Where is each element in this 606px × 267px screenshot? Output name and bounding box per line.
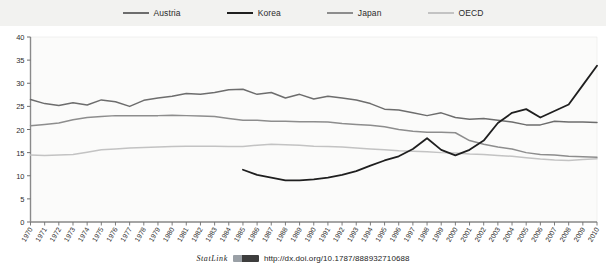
svg-text:1986: 1986 xyxy=(247,226,261,243)
y-axis-tick-labels: 0510152025303540 xyxy=(16,33,24,227)
svg-text:1981: 1981 xyxy=(176,226,190,243)
svg-text:1984: 1984 xyxy=(218,226,232,243)
svg-text:1977: 1977 xyxy=(119,226,133,243)
svg-text:20: 20 xyxy=(16,126,24,135)
svg-text:2009: 2009 xyxy=(572,226,586,243)
legend-label-japan: Japan xyxy=(358,8,382,18)
svg-text:1982: 1982 xyxy=(190,226,204,243)
svg-text:1983: 1983 xyxy=(204,226,218,243)
svg-text:1993: 1993 xyxy=(346,226,360,243)
svg-text:2000: 2000 xyxy=(445,226,459,243)
svg-text:1998: 1998 xyxy=(417,226,431,243)
svg-text:1994: 1994 xyxy=(360,226,374,243)
legend-item-japan[interactable]: Japan xyxy=(327,8,382,18)
legend-label-oecd: OECD xyxy=(459,8,484,18)
svg-text:40: 40 xyxy=(16,33,24,42)
svg-text:2006: 2006 xyxy=(530,226,544,243)
svg-text:1985: 1985 xyxy=(232,226,246,243)
svg-text:0: 0 xyxy=(20,218,24,227)
svg-text:1992: 1992 xyxy=(332,226,346,243)
svg-text:35: 35 xyxy=(16,56,24,65)
svg-text:1989: 1989 xyxy=(289,226,303,243)
svg-text:1970: 1970 xyxy=(20,226,34,243)
statlink-label: StatLink xyxy=(196,254,227,263)
chart-plot-area: 0510152025303540 19701971197219731974197… xyxy=(0,26,606,267)
svg-text:1975: 1975 xyxy=(91,226,105,243)
svg-text:1973: 1973 xyxy=(63,226,77,243)
svg-text:2004: 2004 xyxy=(502,226,516,243)
chart-screenshot: Austria Korea Japan OECD 051015202530354… xyxy=(0,0,606,267)
svg-text:5: 5 xyxy=(20,195,24,204)
y-axis xyxy=(27,37,31,222)
x-axis xyxy=(31,222,598,226)
x-axis-tick-labels: 1970197119721973197419751976197719781979… xyxy=(20,226,600,243)
svg-text:1999: 1999 xyxy=(431,226,445,243)
chart-legend: Austria Korea Japan OECD xyxy=(0,0,606,26)
svg-text:15: 15 xyxy=(16,149,24,158)
svg-text:1979: 1979 xyxy=(147,226,161,243)
statlink-badge-icon xyxy=(233,255,259,262)
plot-background xyxy=(31,37,598,222)
svg-text:2008: 2008 xyxy=(558,226,572,243)
svg-text:1971: 1971 xyxy=(34,226,48,243)
legend-swatch-oecd xyxy=(428,12,454,14)
legend-item-austria[interactable]: Austria xyxy=(123,8,181,18)
legend-label-austria: Austria xyxy=(154,8,181,18)
svg-text:2010: 2010 xyxy=(587,226,601,243)
svg-text:1991: 1991 xyxy=(317,226,331,243)
svg-text:1996: 1996 xyxy=(388,226,402,243)
svg-text:1980: 1980 xyxy=(162,226,176,243)
svg-text:1974: 1974 xyxy=(77,226,91,243)
statlink-footer: StatLink http://dx.doi.org/10.1787/88893… xyxy=(0,251,606,265)
svg-text:1995: 1995 xyxy=(374,226,388,243)
svg-text:2007: 2007 xyxy=(544,226,558,243)
svg-text:1997: 1997 xyxy=(402,226,416,243)
svg-text:1972: 1972 xyxy=(48,226,62,243)
svg-text:1988: 1988 xyxy=(275,226,289,243)
svg-text:2002: 2002 xyxy=(473,226,487,243)
legend-item-korea[interactable]: Korea xyxy=(227,8,281,18)
svg-text:10: 10 xyxy=(16,172,24,181)
svg-text:1976: 1976 xyxy=(105,226,119,243)
legend-swatch-japan xyxy=(327,12,353,14)
svg-text:2001: 2001 xyxy=(459,226,473,243)
svg-text:1978: 1978 xyxy=(133,226,147,243)
statlink-url-link[interactable]: http://dx.doi.org/10.1787/888932710688 xyxy=(264,254,410,263)
svg-text:1990: 1990 xyxy=(303,226,317,243)
svg-text:30: 30 xyxy=(16,79,24,88)
legend-swatch-korea xyxy=(227,12,253,14)
legend-label-korea: Korea xyxy=(258,8,281,18)
legend-swatch-austria xyxy=(123,12,149,14)
line-chart-svg: 0510152025303540 19701971197219731974197… xyxy=(0,26,606,267)
svg-text:2005: 2005 xyxy=(516,226,530,243)
svg-text:25: 25 xyxy=(16,102,24,111)
svg-text:2003: 2003 xyxy=(487,226,501,243)
svg-text:1987: 1987 xyxy=(261,226,275,243)
legend-item-oecd[interactable]: OECD xyxy=(428,8,484,18)
